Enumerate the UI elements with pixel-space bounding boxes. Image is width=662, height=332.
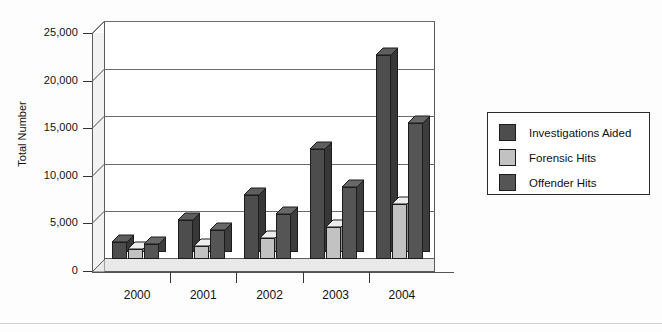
x-axis-line [92, 272, 454, 273]
y-tick-mark [83, 223, 92, 224]
y-tick-label: 0 [14, 264, 78, 276]
x-tick-mark [369, 272, 370, 283]
footer-rule [0, 323, 662, 324]
bar-top-face [276, 207, 291, 214]
bar-top-face [376, 48, 391, 55]
plot-area: 05,00010,00015,00020,00025,000 200020012… [0, 0, 662, 332]
bar-top-face [210, 223, 225, 230]
bar-front-face [178, 220, 193, 259]
plot-floor-left-edge [92, 259, 105, 272]
bar-front-face [310, 149, 325, 259]
y-axis-title: Total Number [16, 64, 28, 204]
y-tick-mark [83, 81, 92, 82]
bar-top-face [244, 188, 259, 195]
legend-label: Investigations Aided [529, 127, 631, 139]
y-tick-mark [83, 271, 92, 272]
bar-2003-offender-hits [342, 187, 357, 259]
bar-2001-offender-hits [210, 230, 225, 259]
bar-front-face [326, 227, 341, 259]
bar-top-face [112, 235, 127, 242]
legend-item-forensic-hits: Forensic Hits [499, 149, 596, 166]
legend-label: Offender Hits [529, 177, 597, 189]
y-tick-mark [83, 33, 92, 34]
bar-front-face [144, 244, 159, 259]
bar-top-face [392, 197, 407, 204]
bar-top-face [408, 116, 423, 123]
y-tick-label: 25,000 [14, 26, 78, 38]
bar-2003-forensic-hits [326, 227, 341, 259]
legend-label: Forensic Hits [529, 152, 596, 164]
legend-swatch-icon [499, 174, 516, 191]
plot-floor [104, 259, 435, 272]
legend-swatch-icon [499, 124, 516, 141]
bar-2004-investigations-aided [376, 55, 391, 259]
gridline [104, 21, 435, 22]
bar-top-face [326, 220, 341, 227]
bar-2002-investigations-aided [244, 195, 259, 259]
y-tick-mark [83, 176, 92, 177]
chart-legend: Investigations AidedForensic HitsOffende… [487, 112, 650, 195]
legend-swatch-icon [499, 149, 516, 166]
bar-front-face [210, 230, 225, 259]
bar-front-face [260, 238, 275, 259]
x-tick-mark [303, 272, 304, 283]
legend-item-investigations-aided: Investigations Aided [499, 124, 631, 141]
bar-2001-forensic-hits [194, 246, 209, 259]
bar-front-face [392, 204, 407, 259]
bar-2004-offender-hits [408, 123, 423, 259]
x-tick-label-2004: 2004 [362, 288, 442, 302]
bar-top-face [178, 213, 193, 220]
bar-2002-offender-hits [276, 214, 291, 259]
bar-top-face [342, 180, 357, 187]
y-tick-label: 5,000 [14, 216, 78, 228]
bar-front-face [276, 214, 291, 259]
bar-2001-investigations-aided [178, 220, 193, 259]
bar-top-face [144, 237, 159, 244]
bar-front-face [376, 55, 391, 259]
bar-2000-forensic-hits [128, 249, 143, 259]
bar-2003-investigations-aided [310, 149, 325, 259]
bar-front-face [408, 123, 423, 259]
legend-item-offender-hits: Offender Hits [499, 174, 597, 191]
bar-top-face [260, 231, 275, 238]
bar-top-face [128, 242, 143, 249]
bar-2002-forensic-hits [260, 238, 275, 259]
y-tick-mark [83, 128, 92, 129]
bar-2004-forensic-hits [392, 204, 407, 259]
bar-top-face [194, 239, 209, 246]
bar-side-face [357, 180, 364, 252]
bar-front-face [342, 187, 357, 259]
bar-top-face [310, 142, 325, 149]
bar-front-face [244, 195, 259, 259]
bar-2000-investigations-aided [112, 242, 127, 259]
x-tick-mark [170, 272, 171, 283]
bar-front-face [112, 242, 127, 259]
chart-figure: 05,00010,00015,00020,00025,000 200020012… [0, 0, 662, 332]
gridline-side [92, 21, 105, 34]
x-tick-mark [236, 272, 237, 283]
bar-side-face [423, 116, 430, 252]
bar-2000-offender-hits [144, 244, 159, 259]
